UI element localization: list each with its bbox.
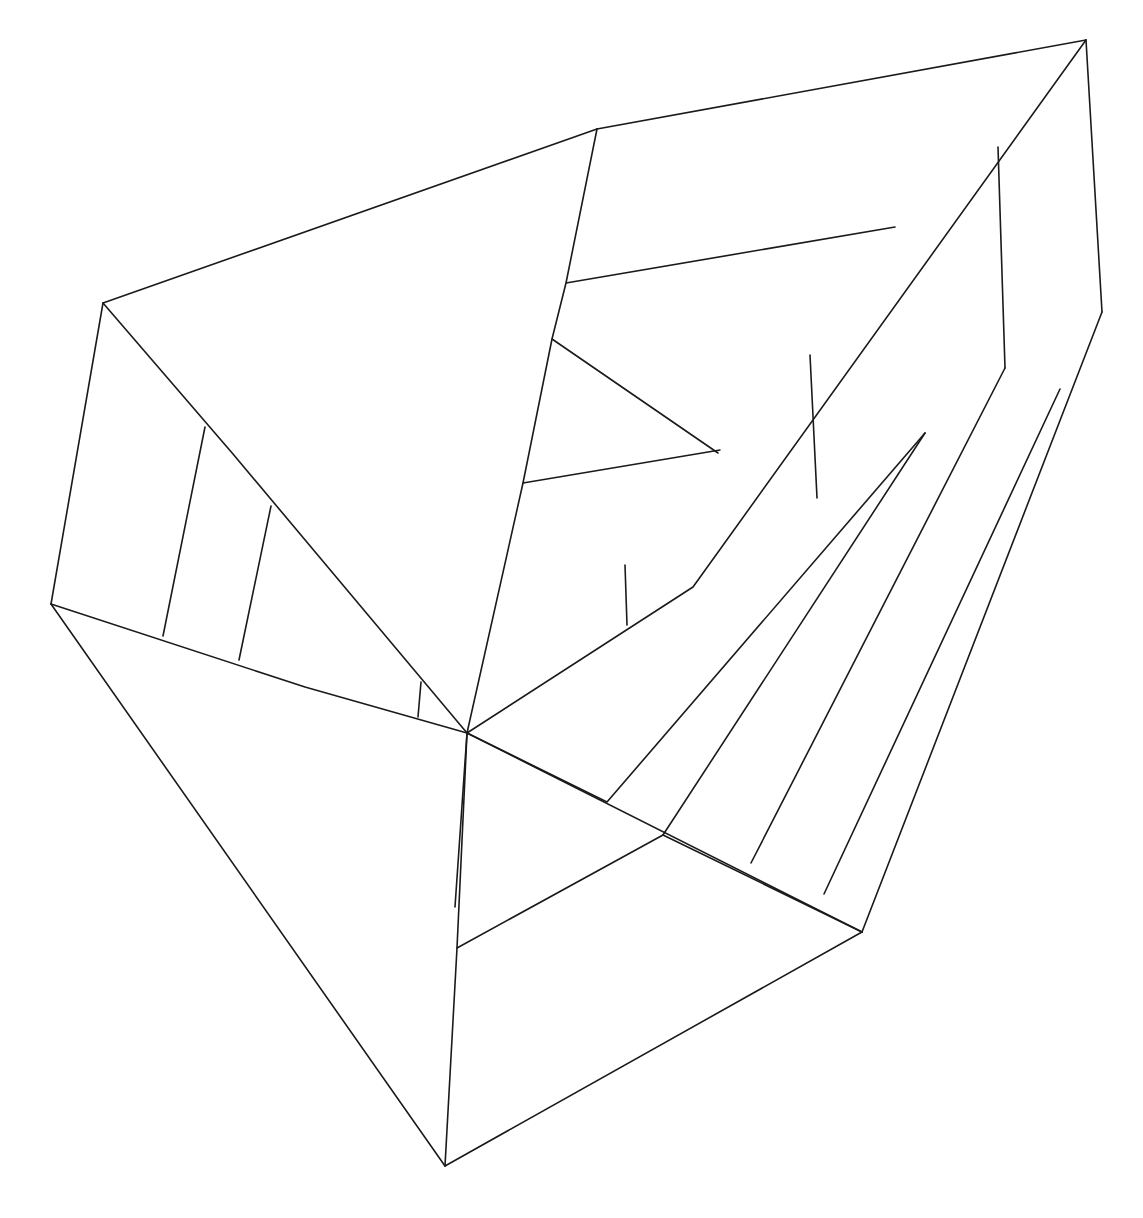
outline-bottom-left-edge (51, 604, 445, 1166)
fold-right-panel-b (751, 368, 1005, 863)
fold-vertical-band-small (625, 565, 627, 625)
outline-right-upper-edge (1086, 40, 1102, 312)
fold-lower-mid-horizontal (523, 450, 720, 483)
crease-topleft-to-hub (103, 303, 467, 733)
fold-left-band-a (163, 427, 205, 636)
fold-vertical-band-mid (810, 355, 817, 498)
crease-hub-down-left (455, 733, 467, 907)
fold-mid-horizontal (552, 339, 718, 453)
polygon-line-drawing (0, 0, 1143, 1218)
outline-bottom-right-edge (445, 932, 862, 1166)
crease-bend-to-hub (467, 129, 597, 733)
fold-left-band-b (239, 506, 271, 660)
outline-left-edge (51, 303, 103, 604)
crease-apex-to-hub (467, 40, 1086, 733)
outline-right-lower-edge (862, 312, 1102, 932)
drawing-canvas (0, 0, 1143, 1218)
outline-top-left-edge (103, 129, 597, 303)
fold-upper-mid-horizontal (566, 227, 895, 283)
crease-lower-right-chain (457, 835, 862, 948)
crease-hub-down (445, 733, 467, 1166)
crease-left-vertex-to-hub-chain (51, 604, 467, 733)
line-group (51, 40, 1102, 1166)
fold-right-panel-a (663, 433, 925, 835)
fold-right-panel-c (824, 389, 1060, 894)
crease-band-lower (467, 433, 925, 802)
outline-top-right-edge (597, 40, 1086, 129)
fold-small-left-of-hub (418, 682, 421, 717)
fold-vertical-right-top (998, 147, 1005, 368)
